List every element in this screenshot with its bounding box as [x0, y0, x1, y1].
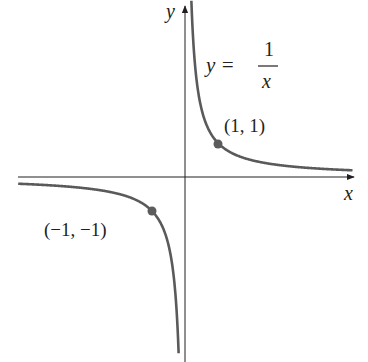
- point-1-1: [214, 140, 223, 149]
- x-axis-label: x: [343, 182, 353, 204]
- point-label-1-1: (1, 1): [224, 115, 265, 137]
- svg-text:y =: y =: [204, 53, 235, 77]
- svg-text:x: x: [261, 70, 271, 92]
- equation-label: y = 1 x: [204, 38, 278, 92]
- graph: y x y = 1 x (1, 1) (−1, −1): [0, 0, 368, 362]
- point-label-neg1-neg1: (−1, −1): [44, 219, 107, 241]
- point-neg1-neg1: [148, 207, 157, 216]
- y-axis-label: y: [164, 0, 175, 23]
- svg-text:1: 1: [264, 38, 274, 60]
